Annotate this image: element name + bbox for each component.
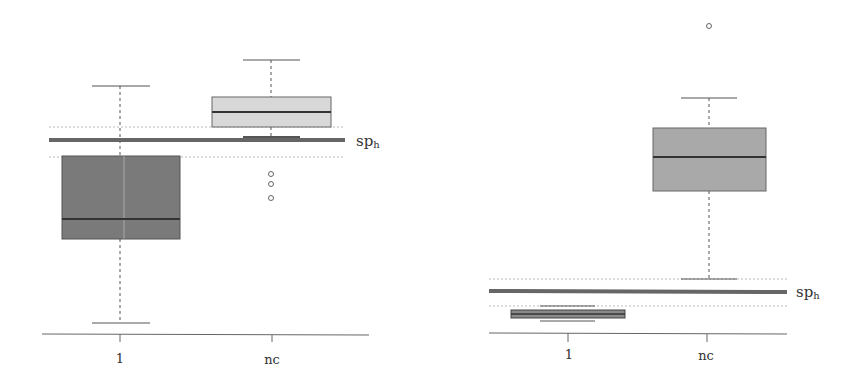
box-1 [62,86,180,323]
outlier-point [269,182,274,187]
boxplot-figure: sph 1 nc sph [0,0,863,389]
outlier-point [269,196,274,201]
x-axis [489,333,787,334]
x-tick-label-1: 1 [565,347,573,362]
sp-h-reference-line [489,291,787,292]
box-nc [653,24,766,280]
outlier-point [269,172,274,177]
box-nc [212,60,331,201]
x-tick-label-nc: nc [698,348,714,363]
left-panel: sph 1 nc [42,60,380,367]
outlier-point [707,24,712,29]
x-tick-label-1: 1 [116,351,124,366]
right-panel: sph 1 nc [489,24,820,364]
x-axis [42,334,369,335]
sp-h-label: sph [356,132,380,150]
box-1 [511,306,625,321]
x-tick-label-nc: nc [264,352,280,367]
sp-h-label: sph [796,283,820,301]
